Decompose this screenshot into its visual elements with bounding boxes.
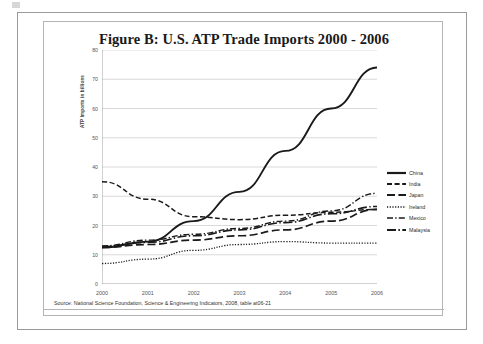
legend-label: Malaysia (409, 227, 430, 233)
legend-swatch-mexico (387, 214, 406, 222)
series-line-malaysia (102, 206, 377, 246)
y-axis-tick-label: 40 (92, 164, 98, 170)
legend-label: India (409, 181, 421, 187)
source-divider (44, 309, 444, 310)
y-axis-title: ATP Imports in billions (80, 8, 85, 128)
chart-title: Figure B: U.S. ATP Trade Imports 2000 - … (44, 31, 444, 48)
legend-item-china[interactable]: China (387, 167, 441, 178)
x-axis-tick-label: 2002 (188, 290, 200, 296)
y-axis-tick-label: 10 (92, 252, 98, 258)
y-axis-tick-label: 20 (92, 223, 98, 229)
scan-edge (0, 337, 483, 344)
y-axis-tick-label: 70 (92, 76, 98, 82)
legend-label: Ireland (409, 204, 425, 210)
x-axis-tick-label: 2003 (234, 290, 246, 296)
y-axis-tick-label: 60 (92, 106, 98, 112)
figure-outer-frame: Figure B: U.S. ATP Trade Imports 2000 - … (17, 12, 467, 330)
legend-item-mexico[interactable]: Mexico (387, 213, 441, 224)
legend-swatch-china (387, 169, 406, 177)
x-axis-tick-label: 2004 (279, 290, 291, 296)
legend-label: Japan (409, 192, 423, 198)
y-axis-tick-label: 80 (92, 47, 98, 53)
y-axis-tick-label: 30 (92, 193, 98, 199)
scan-artifact-mark (12, 2, 20, 8)
y-axis-tick-label: 0 (95, 281, 98, 287)
y-axis-tick-label: 50 (92, 135, 98, 141)
x-axis-tick-label: 2005 (325, 290, 337, 296)
plot-lines (102, 50, 377, 284)
legend-swatch-malaysia (387, 226, 406, 234)
x-axis-tick-label: 2001 (142, 290, 154, 296)
chart-legend: ChinaIndiaJapanIrelandMexicoMalaysia (387, 167, 441, 235)
source-note: Source: National Science Foundation, Sci… (54, 300, 271, 306)
x-axis-tick-label: 2006 (371, 290, 383, 296)
legend-label: Mexico (409, 215, 426, 221)
legend-swatch-japan (387, 191, 406, 199)
legend-item-malaysia[interactable]: Malaysia (387, 224, 441, 235)
legend-label: China (409, 170, 423, 176)
x-axis-tick-label: 2000 (96, 290, 108, 296)
legend-item-india[interactable]: India (387, 178, 441, 189)
legend-swatch-ireland (387, 203, 406, 211)
legend-item-ireland[interactable]: Ireland (387, 201, 441, 212)
chart-container: Figure B: U.S. ATP Trade Imports 2000 - … (43, 21, 443, 316)
legend-swatch-india (387, 180, 406, 188)
plot-area: 0102030405060708020002001200220032004200… (102, 50, 377, 284)
legend-item-japan[interactable]: Japan (387, 190, 441, 201)
